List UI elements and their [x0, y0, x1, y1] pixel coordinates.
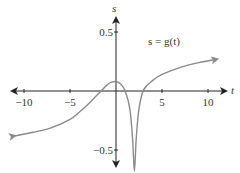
y-tick-label: 0.5 [99, 26, 113, 38]
x-axis-label: t [231, 84, 235, 96]
function-annotation: s = g(t) [148, 35, 180, 48]
x-tick-label: 5 [159, 96, 165, 108]
y-axis-label: s [112, 2, 116, 14]
x-tick-label: 10 [203, 96, 215, 108]
x-tick-label: −10 [15, 96, 33, 108]
chart: −10−55100.5−0.5 t s s = g(t) [0, 0, 240, 173]
x-tick-label: −5 [64, 96, 76, 108]
y-tick-label: −0.5 [93, 144, 113, 156]
